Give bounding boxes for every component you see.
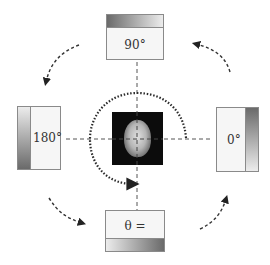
crosshair-overlay — [0, 0, 270, 265]
rotation-diagram: 90° 180° 0° θ = — [0, 0, 270, 265]
